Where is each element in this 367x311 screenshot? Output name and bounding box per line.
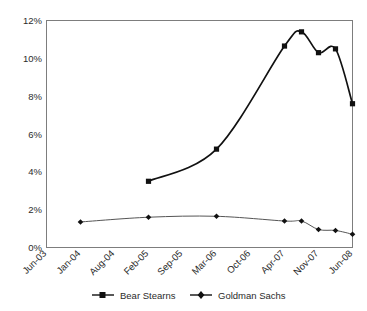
line-chart: 12% 10% 8% 6% 4% 2% 0% Jun-03 Jan-04 Aug… <box>0 0 367 311</box>
legend-marker-square-icon <box>100 292 106 298</box>
data-point-marker-square <box>146 179 151 184</box>
x-tick-label: Oct-06 <box>224 248 252 276</box>
x-tick-label: Sep-05 <box>155 248 184 277</box>
x-tick-label: Feb-05 <box>121 248 150 277</box>
data-point-marker-square <box>333 46 338 51</box>
plot-area-frame <box>47 21 353 248</box>
legend-marker-diamond-icon <box>198 291 205 299</box>
chart-canvas: 12% 10% 8% 6% 4% 2% 0% Jun-03 Jan-04 Aug… <box>0 0 367 311</box>
data-point-marker-square <box>316 50 321 55</box>
data-point-marker-square <box>350 101 355 106</box>
x-tick-label: Jan-04 <box>54 248 82 276</box>
y-tick-label: 6% <box>28 129 42 140</box>
data-point-marker-square <box>282 43 287 48</box>
y-tick-label: 4% <box>28 166 42 177</box>
x-tick-label: Nov-07 <box>291 248 320 277</box>
x-axis-tick-labels: Jun-03 Jan-04 Aug-04 Feb-05 Sep-05 Mar-0… <box>20 248 354 277</box>
x-tick-label: Apr-07 <box>258 248 286 276</box>
y-tick-label: 12% <box>23 15 43 26</box>
y-axis-tick-labels: 12% 10% 8% 6% 4% 2% 0% <box>23 15 43 253</box>
legend-label-bear-stearns: Bear Stearns <box>120 290 176 301</box>
legend-label-goldman-sachs: Goldman Sachs <box>218 290 286 301</box>
x-tick-label: Jun-08 <box>326 248 354 276</box>
y-tick-label: 2% <box>28 204 42 215</box>
data-point-marker-square <box>299 29 304 34</box>
x-tick-label: Aug-04 <box>87 248 116 277</box>
y-tick-label: 10% <box>23 53 43 64</box>
data-point-marker-square <box>214 147 219 152</box>
legend: Bear Stearns Goldman Sachs <box>92 290 286 301</box>
x-tick-label: Mar-06 <box>189 248 218 277</box>
y-tick-label: 8% <box>28 91 42 102</box>
